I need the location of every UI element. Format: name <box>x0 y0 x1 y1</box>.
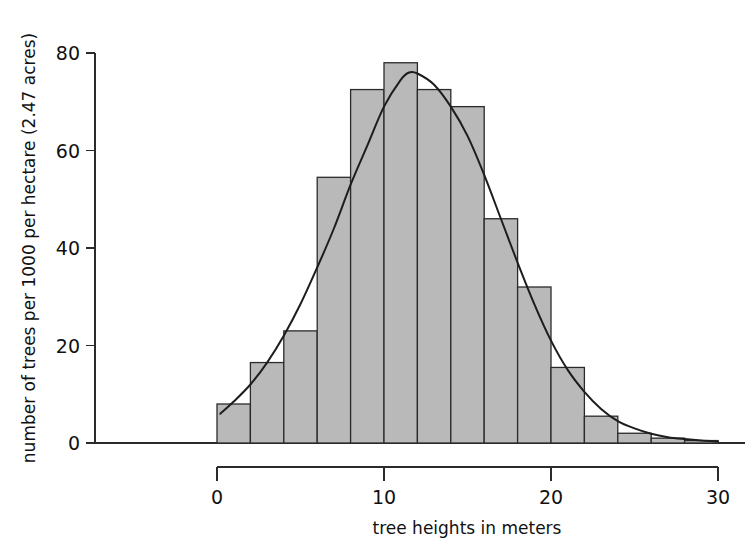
x-tick-label-30: 30 <box>706 486 730 508</box>
x-axis-tick-labels: 0 10 20 30 <box>211 486 730 508</box>
histogram-bar <box>417 90 450 443</box>
y-axis-ticks <box>86 53 95 443</box>
x-tick-label-10: 10 <box>372 486 396 508</box>
histogram-bar <box>284 331 317 443</box>
histogram-bar <box>351 90 384 443</box>
y-axis-title: number of trees per 1000 per hectare (2.… <box>19 33 39 463</box>
x-tick-label-20: 20 <box>539 486 563 508</box>
y-tick-label-80: 80 <box>56 42 80 64</box>
histogram-figure: 80 60 40 20 0 number of trees per 1000 p… <box>0 0 755 548</box>
histogram-bar <box>217 404 250 443</box>
x-axis-title: tree heights in meters <box>373 518 562 538</box>
x-axis-ruler <box>217 467 718 481</box>
histogram-bar <box>518 287 551 443</box>
x-tick-label-0: 0 <box>211 486 223 508</box>
histogram-bars <box>217 63 718 443</box>
histogram-bar <box>250 363 283 443</box>
histogram-bar <box>451 107 484 443</box>
histogram-bar <box>317 177 350 443</box>
y-axis-tick-labels: 80 60 40 20 0 <box>56 42 80 454</box>
y-tick-label-20: 20 <box>56 335 80 357</box>
histogram-bar <box>384 63 417 443</box>
histogram-bar <box>584 416 617 443</box>
y-tick-label-60: 60 <box>56 140 80 162</box>
y-tick-label-0: 0 <box>68 432 80 454</box>
tree-height-histogram-chart: 80 60 40 20 0 number of trees per 1000 p… <box>0 0 755 548</box>
histogram-bar <box>618 433 651 443</box>
histogram-bar <box>551 367 584 443</box>
y-tick-label-40: 40 <box>56 237 80 259</box>
